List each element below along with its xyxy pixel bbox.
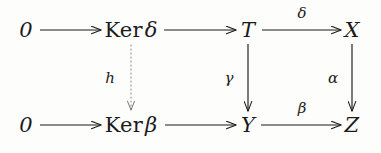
node-z: Z bbox=[345, 115, 360, 136]
edge-label-beta: β bbox=[298, 101, 307, 116]
node-z-label: Z bbox=[345, 113, 360, 137]
commutative-diagram: 0 Kerδ T X 0 Kerβ Y Z δ β h γ α bbox=[0, 0, 381, 153]
node-ker-beta-operator: Ker bbox=[105, 113, 143, 137]
node-t: T bbox=[241, 20, 255, 41]
node-zero-top-label: 0 bbox=[19, 18, 33, 42]
edge-label-delta: δ bbox=[297, 6, 306, 21]
node-y: Y bbox=[241, 115, 255, 136]
edge-label-alpha: α bbox=[328, 71, 338, 86]
node-x-label: X bbox=[344, 18, 359, 42]
node-ker-beta-argument: β bbox=[143, 113, 157, 137]
node-t-label: T bbox=[241, 18, 255, 42]
node-ker-beta: Kerβ bbox=[105, 115, 158, 136]
node-ker-delta: Kerδ bbox=[104, 20, 157, 41]
arrow-layer bbox=[0, 0, 381, 153]
node-zero-bottom-label: 0 bbox=[19, 113, 33, 137]
node-x: X bbox=[344, 20, 359, 41]
node-ker-delta-operator: Ker bbox=[104, 18, 142, 42]
node-zero-top: 0 bbox=[19, 20, 33, 41]
node-y-label: Y bbox=[241, 113, 255, 137]
edge-label-gamma: γ bbox=[225, 71, 234, 86]
edge-label-h: h bbox=[105, 71, 115, 86]
node-ker-delta-argument: δ bbox=[143, 18, 158, 42]
node-zero-bottom: 0 bbox=[19, 115, 33, 136]
